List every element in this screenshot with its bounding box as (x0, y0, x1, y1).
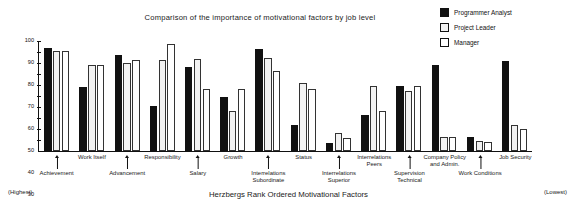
bar-group (39, 41, 74, 151)
category-label: Responsibility (144, 154, 180, 161)
bar (229, 111, 236, 151)
bar (97, 65, 104, 151)
bar (484, 142, 491, 151)
category-label: Work Itself (78, 154, 106, 161)
bar (432, 65, 439, 151)
bar-group (391, 41, 426, 151)
category-arrow-icon (55, 155, 59, 158)
filled-black-swatch-icon (440, 8, 449, 17)
plot-area: 102030405060708090100 (38, 41, 532, 151)
y-axis-tick-label: 40 (28, 170, 34, 176)
x-axis-title: Herzbergs Rank Ordered Motivational Fact… (0, 190, 577, 199)
category-label: Achievement (40, 170, 74, 177)
bar (194, 59, 201, 151)
category-label: Salary (189, 170, 206, 177)
bar (326, 143, 333, 151)
bar-group (74, 41, 109, 151)
bar (88, 65, 95, 151)
bar (115, 55, 122, 151)
bar (502, 61, 509, 151)
bar-group (180, 41, 215, 151)
category-arrow-icon (196, 155, 200, 158)
category-tick-stem (268, 158, 269, 169)
bar (132, 60, 139, 151)
bar (264, 58, 271, 152)
category-arrow-icon (337, 155, 341, 158)
category-label: InterrelationsSubordinate (251, 170, 285, 183)
category-tick-stem (410, 158, 411, 169)
category-label: Job Security (499, 154, 531, 161)
category-label: Status (295, 154, 312, 161)
category-label: SupervisionTechnical (394, 170, 425, 183)
bar-group (426, 41, 461, 151)
bar (343, 138, 350, 151)
bar (53, 51, 60, 151)
bar (238, 89, 245, 151)
category-label: InterrelationsPeers (357, 154, 391, 167)
light-gray-swatch-icon (440, 23, 449, 32)
category-arrow-icon (266, 155, 270, 158)
bar (476, 141, 483, 151)
bar (44, 48, 51, 151)
bar (79, 87, 86, 151)
bar-group (250, 41, 285, 151)
bar (449, 137, 456, 151)
bar (167, 44, 174, 151)
bar-group (215, 41, 250, 151)
bar (467, 137, 474, 151)
bar (440, 137, 447, 151)
bar-group (286, 41, 321, 151)
category-arrow-icon (478, 155, 482, 158)
category-labels: AchievementWork ItselfAdvancementRespons… (39, 152, 533, 192)
category-label: Growth (224, 154, 243, 161)
bar-groups (39, 41, 532, 151)
bar (396, 86, 403, 151)
category-label: Advancement (109, 170, 145, 177)
bar-group (497, 41, 532, 151)
bar (335, 133, 342, 151)
bar (361, 115, 368, 151)
bar (203, 89, 210, 151)
bar-group (145, 41, 180, 151)
bar (62, 51, 69, 151)
bar (159, 60, 166, 151)
category-label: Work Conditions (459, 170, 502, 177)
category-tick-stem (198, 158, 199, 169)
category-tick-stem (127, 158, 128, 169)
bar (185, 67, 192, 151)
bar (255, 49, 262, 151)
bar-group (462, 41, 497, 151)
bar (379, 111, 386, 151)
bar (520, 129, 527, 151)
legend-item-label: Programmer Analyst (454, 9, 512, 16)
legend-item-label: Project Leader (454, 24, 496, 31)
y-axis-tick-label: 60 (28, 126, 34, 132)
category-tick-stem (57, 158, 58, 169)
bar-group (109, 41, 144, 151)
bar (123, 63, 130, 151)
category-arrow-icon (408, 155, 412, 158)
bar (220, 97, 227, 151)
bar (273, 71, 280, 151)
lowest-note: (Lowest) (544, 189, 567, 195)
bar (511, 125, 518, 151)
bar-group (356, 41, 391, 151)
y-axis-tick-label: 80 (28, 82, 34, 88)
y-axis-tick-label: 70 (28, 104, 34, 110)
y-axis-tick-label: 100 (25, 38, 34, 44)
bar (299, 83, 306, 151)
bar (405, 91, 412, 152)
bar (291, 125, 298, 151)
category-label: Company Policyand Admin. (424, 154, 467, 167)
y-axis-tick-label: 90 (28, 60, 34, 66)
category-tick-stem (480, 158, 481, 169)
bar (370, 86, 377, 151)
bar-group (321, 41, 356, 151)
bar (150, 106, 157, 151)
legend-item: Programmer Analyst (440, 6, 512, 19)
legend-item: Project Leader (440, 21, 512, 34)
chart-root: Comparison of the importance of motivati… (0, 0, 577, 207)
category-tick-stem (339, 158, 340, 169)
bar (308, 89, 315, 151)
y-axis-tick-label: 50 (28, 148, 34, 154)
